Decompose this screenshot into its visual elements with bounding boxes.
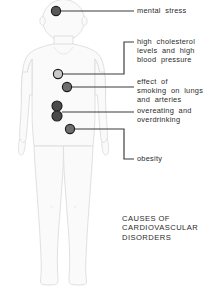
figure-caption-line: DISORDERS bbox=[122, 233, 198, 242]
figure-caption: CAUSES OFCARDIOVASCULARDISORDERS bbox=[122, 214, 198, 242]
body-head bbox=[43, 0, 85, 41]
callout-label-obesity: obesity bbox=[137, 155, 162, 164]
marker-dot-overeating-overdrinking[interactable] bbox=[52, 101, 62, 111]
callout-label-high-cholesterol-blood-pressure: high cholesterollevels and highblood pre… bbox=[137, 38, 195, 65]
body-leg-right bbox=[64, 146, 94, 285]
body-ear-left bbox=[40, 17, 45, 25]
callout-label-line: and arteries bbox=[137, 96, 203, 105]
marker-dot-effect-of-smoking[interactable] bbox=[62, 82, 71, 91]
body-hand-right bbox=[102, 139, 109, 155]
body-hand-left bbox=[18, 139, 25, 155]
body-ear-right bbox=[82, 17, 87, 25]
marker-dot-overeating-overdrinking-2[interactable] bbox=[52, 111, 62, 121]
callout-label-line: mental stress bbox=[137, 7, 187, 16]
human-body-silhouette bbox=[18, 0, 108, 285]
figure-caption-line: CARDIOVASCULAR bbox=[122, 223, 198, 232]
callout-label-line: obesity bbox=[137, 155, 162, 164]
marker-dot-high-cholesterol-blood-pressure[interactable] bbox=[53, 69, 62, 78]
callout-label-overeating-overdrinking: overeating andoverdrinking bbox=[137, 107, 192, 125]
body-torso bbox=[21, 44, 105, 146]
marker-dot-obesity[interactable] bbox=[65, 124, 74, 133]
callout-label-line: overdrinking bbox=[137, 116, 192, 125]
figure-caption-line: CAUSES OF bbox=[122, 214, 198, 223]
body-arm-right bbox=[95, 59, 107, 143]
body-arm-left bbox=[20, 59, 32, 143]
callout-label-mental-stress: mental stress bbox=[137, 7, 187, 16]
marker-dot-mental-stress[interactable] bbox=[51, 6, 60, 15]
callout-label-effect-of-smoking: effect ofsmoking on lungsand arteries bbox=[137, 78, 203, 105]
callout-label-line: blood pressure bbox=[137, 56, 195, 65]
body-leg-left bbox=[34, 146, 64, 285]
